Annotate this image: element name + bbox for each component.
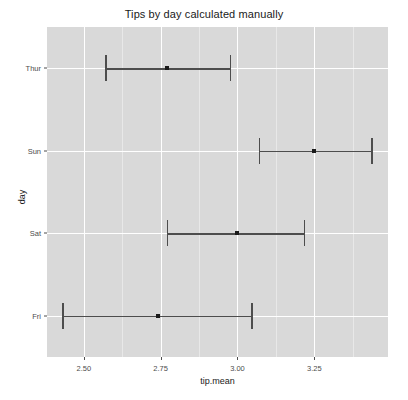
- errorbar-cap-lower: [167, 220, 169, 246]
- gridline-minor-vertical: [353, 27, 354, 357]
- errorbar-cap-upper: [304, 220, 306, 246]
- plot-panel: [47, 27, 388, 357]
- y-tick-mark: [44, 233, 47, 234]
- chart-title: Tips by day calculated manually: [0, 8, 408, 20]
- x-tick-label-3-00: 3.00: [230, 364, 245, 373]
- errorbar-cap-lower: [259, 138, 261, 164]
- y-tick-label-sat: Sat: [30, 229, 41, 238]
- x-axis-title: tip.mean: [47, 376, 388, 386]
- x-tick-mark: [161, 357, 162, 360]
- errorbar-cap-upper: [251, 303, 253, 329]
- x-tick-mark: [84, 357, 85, 360]
- errorbar-cap-lower: [62, 303, 64, 329]
- x-tick-mark: [237, 357, 238, 360]
- data-point-sun: [312, 149, 316, 153]
- errorbar-cap-upper: [371, 138, 373, 164]
- y-tick-mark: [44, 150, 47, 151]
- errorbar-cap-upper: [230, 55, 232, 81]
- y-axis-title: day: [17, 167, 27, 227]
- data-point-thur: [165, 66, 169, 70]
- x-tick-label-3-25: 3.25: [307, 364, 322, 373]
- x-tick-label-2-75: 2.75: [153, 364, 168, 373]
- gridline-minor-vertical: [276, 27, 277, 357]
- gridline-major-vertical: [314, 27, 315, 357]
- y-tick-label-thur: Thur: [26, 64, 41, 73]
- data-point-sat: [235, 231, 239, 235]
- data-point-fri: [156, 314, 160, 318]
- y-tick-label-sun: Sun: [28, 146, 41, 155]
- x-tick-label-2-50: 2.50: [77, 364, 92, 373]
- chart-container: Tips by day calculated manually day tip.…: [0, 0, 408, 400]
- x-tick-mark: [314, 357, 315, 360]
- errorbar-cap-lower: [105, 55, 107, 81]
- y-tick-mark: [44, 315, 47, 316]
- y-tick-label-fri: Fri: [32, 311, 41, 320]
- y-tick-mark: [44, 68, 47, 69]
